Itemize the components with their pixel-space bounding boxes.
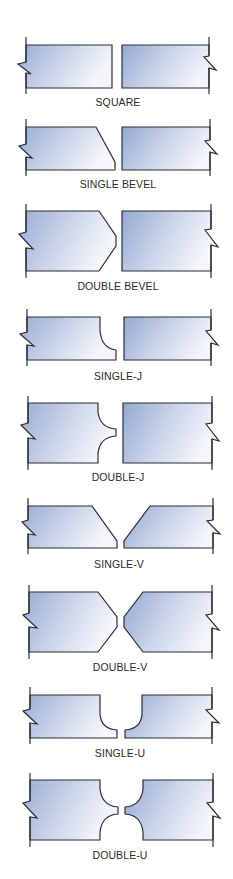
right-plate (125, 780, 220, 840)
left-plate (19, 211, 116, 271)
joint-square: SQUARE (18, 37, 216, 108)
joint-single-j: SINGLE-J (20, 309, 218, 382)
joint-double-bevel: DOUBLE BEVEL (19, 204, 218, 292)
joint-label: SQUARE (96, 96, 141, 108)
joint-single-u: SINGLE-U (23, 687, 219, 759)
joint-label: DOUBLE-U (92, 849, 147, 861)
right-plate (122, 211, 218, 271)
joint-single-v: SINGLE-V (22, 498, 220, 570)
joint-label: DOUBLE-V (93, 661, 147, 673)
joint-single-bevel: SINGLE BEVEL (19, 119, 217, 190)
joint-label: DOUBLE-J (92, 471, 145, 483)
left-plate (23, 695, 117, 738)
joint-label: DOUBLE BEVEL (77, 280, 158, 292)
joint-double-u: DOUBLE-U (23, 773, 220, 861)
joint-label: SINGLE-V (94, 558, 144, 570)
right-plate (124, 506, 220, 548)
joint-label: SINGLE-U (95, 747, 145, 759)
right-plate (125, 695, 219, 738)
joint-double-j: DOUBLE-J (21, 396, 219, 483)
left-plate (23, 592, 117, 652)
right-plate (124, 317, 218, 360)
right-plate (122, 127, 217, 170)
left-plate (22, 506, 117, 548)
left-plate (18, 45, 112, 88)
right-plate (122, 45, 216, 88)
right-plate (123, 403, 219, 463)
right-plate (124, 592, 219, 652)
left-plate (23, 780, 118, 840)
joint-label: SINGLE-J (94, 370, 142, 382)
left-plate (20, 317, 116, 360)
joint-label: SINGLE BEVEL (80, 178, 157, 190)
left-plate (19, 127, 115, 170)
joint-double-v: DOUBLE-V (23, 585, 219, 673)
left-plate (21, 403, 116, 463)
weld-joints-diagram: SQUARE SINGLE BEVEL DOUBLE BEVEL SINGLE-… (0, 0, 233, 879)
